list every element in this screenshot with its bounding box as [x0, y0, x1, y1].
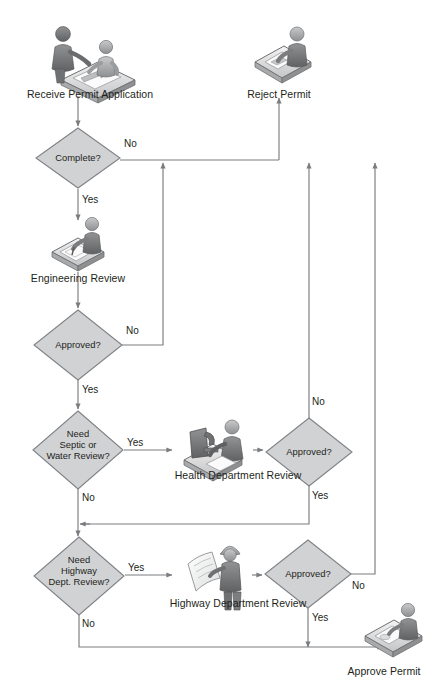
edge-health-yes: [83, 486, 309, 524]
edge-highway-no-to-approve: [79, 615, 383, 647]
label-receive-permit-application: Receive Permit Application: [0, 88, 180, 100]
edge-label-complete-yes: Yes: [82, 194, 98, 205]
person-at-desk-approving-icon: [365, 603, 422, 657]
edge-label-approved-highway-no: No: [352, 580, 365, 591]
edge-engineering-no: [122, 163, 163, 345]
diamond-approved-engineering[interactable]: [34, 310, 122, 380]
edge-label-need-highway-yes: Yes: [128, 562, 144, 573]
person-at-desk-stamping-icon: [255, 27, 311, 83]
edge-label-approved-engineering-no: No: [126, 325, 139, 336]
flowchart-connectors-layer: [0, 0, 439, 685]
edge-label-complete-no: No: [124, 138, 137, 149]
label-reject-permit: Reject Permit: [209, 88, 349, 100]
edge-label-approved-engineering-yes: Yes: [82, 384, 98, 395]
edge-label-need-septic-no: No: [82, 492, 95, 503]
label-highway-department-review: Highway Department Review: [143, 597, 333, 609]
label-engineering-review: Engineering Review: [8, 272, 148, 284]
label-health-department-review: Health Department Review: [148, 469, 328, 481]
diamond-need-highway[interactable]: [34, 537, 124, 615]
diamond-need-septic[interactable]: [33, 411, 123, 489]
diamond-complete[interactable]: [36, 128, 120, 188]
edge-label-need-highway-no: No: [82, 618, 95, 629]
edge-label-approved-health-yes: Yes: [312, 490, 328, 501]
label-approve-permit: Approve Permit: [329, 665, 439, 677]
edge-label-approved-health-no: No: [312, 396, 325, 407]
edge-label-need-septic-yes: Yes: [127, 437, 143, 448]
edge-label-approved-highway-yes: Yes: [312, 612, 328, 623]
decision-shapes: [33, 128, 352, 615]
person-at-drafting-table-icon: [52, 217, 104, 271]
edge-highway-no: [351, 163, 375, 574]
flowchart-canvas: Receive Permit Application Reject Permit…: [0, 0, 439, 685]
